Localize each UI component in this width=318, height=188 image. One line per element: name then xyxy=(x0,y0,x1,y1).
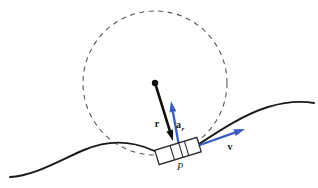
diagram-canvas: rarv P xyxy=(0,0,318,188)
velocity-vector-arrowhead xyxy=(233,129,245,136)
point-label-P: P xyxy=(176,161,183,172)
position-vector-r-arrowhead xyxy=(166,129,173,141)
position-vector-r-label: r xyxy=(155,118,160,129)
radial-acceleration-vector-arrowhead xyxy=(169,101,176,112)
velocity-vector-label: v xyxy=(228,141,233,152)
vector-group xyxy=(156,86,245,146)
curved-track xyxy=(10,102,314,177)
physics-diagram-figure: rarv P xyxy=(0,0,318,188)
